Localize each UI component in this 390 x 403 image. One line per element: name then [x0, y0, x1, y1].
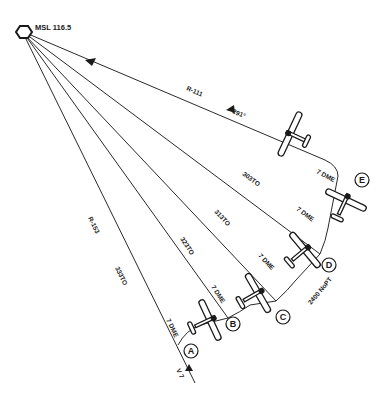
- radial-303-line: [26, 34, 320, 254]
- a-dme-label: 7 DME: [165, 317, 180, 339]
- airplane-icon: [317, 184, 369, 229]
- dme-arc-diagram: MSL 116.5 R-111 291° 303TO 7 DME 313TO 7…: [0, 0, 390, 403]
- svg-text:A: A: [188, 346, 195, 356]
- svg-text:C: C: [280, 312, 287, 322]
- radial-323-line: [25, 35, 228, 318]
- airplane-icon: [274, 229, 324, 281]
- station-label: MSL 116.5: [35, 23, 71, 32]
- fix-b: B: [226, 317, 240, 331]
- r153-label: R-153: [87, 215, 101, 234]
- radial-r111-line: [26, 33, 338, 176]
- fix-d: D: [322, 258, 336, 272]
- radial-lines: [24, 33, 338, 383]
- vor-hexagon-icon: [16, 26, 32, 38]
- c-dme-label: 7 DME: [257, 252, 276, 272]
- airway-v7-label: V 7: [175, 367, 186, 379]
- altitude-note: 2400 NoPT: [306, 276, 333, 306]
- b-dme-label: 7 DME: [210, 284, 227, 305]
- course-303-label: 303TO: [241, 170, 261, 187]
- airplane-icon: [228, 270, 275, 323]
- svg-text:D: D: [326, 260, 333, 270]
- fix-c: C: [276, 310, 290, 324]
- airplane-icon: [275, 110, 318, 164]
- radial-313-line: [25, 35, 276, 301]
- fix-a: A: [184, 344, 198, 358]
- svg-text:E: E: [359, 175, 365, 185]
- radial-r153-line: [24, 35, 195, 383]
- course-313-label: 313TO: [213, 208, 232, 227]
- d-dme-label: 7 DME: [295, 205, 316, 223]
- r111-label: R-111: [186, 84, 205, 97]
- svg-text:B: B: [230, 319, 237, 329]
- course-291-label: 291°: [232, 107, 247, 119]
- fix-e: E: [355, 173, 369, 187]
- e-dme-label: 7 DME: [316, 168, 337, 184]
- course-333-label: 333TO: [114, 265, 129, 286]
